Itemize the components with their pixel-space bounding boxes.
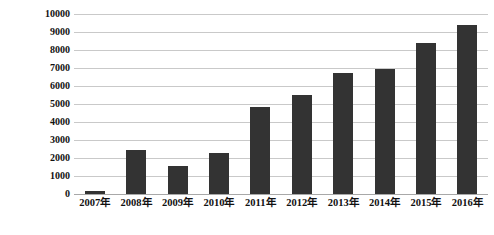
bar[interactable] <box>250 107 270 194</box>
x-axis-tick-label: 2012年 <box>281 196 322 216</box>
x-axis-tick-label: 2011年 <box>240 196 281 216</box>
x-axis-tick-label: 2008年 <box>115 196 156 216</box>
bar[interactable] <box>333 73 353 195</box>
bar-chart: 收费站年平均日交通量(辆/日) 010002000300040005000600… <box>0 0 494 235</box>
y-axis-tick-label: 8000 <box>26 45 70 55</box>
y-axis-tick-label: 3000 <box>26 135 70 145</box>
x-axis-tick-label: 2016年 <box>447 196 488 216</box>
bar-slot <box>322 14 363 194</box>
bar[interactable] <box>375 69 395 194</box>
bar[interactable] <box>85 191 105 194</box>
bar-slot <box>115 14 156 194</box>
bar[interactable] <box>168 166 188 194</box>
x-axis-tick-labels: 2007年2008年2009年2010年2011年2012年2013年2014年… <box>74 196 488 216</box>
y-axis-tick-label: 9000 <box>26 27 70 37</box>
y-axis-tick-label: 0 <box>26 189 70 199</box>
y-axis-tick-label: 2000 <box>26 153 70 163</box>
gridline <box>74 194 488 195</box>
x-axis-tick-label: 2007年 <box>74 196 115 216</box>
y-axis-tick-label: 4000 <box>26 117 70 127</box>
bar[interactable] <box>209 153 229 194</box>
x-axis-tick-label: 2010年 <box>198 196 239 216</box>
y-axis-tick-label: 7000 <box>26 63 70 73</box>
bar-series <box>74 14 488 194</box>
plot-area <box>74 14 488 194</box>
bar-slot <box>240 14 281 194</box>
y-axis-tick-label: 6000 <box>26 81 70 91</box>
x-axis-tick-label: 2015年 <box>405 196 446 216</box>
bar[interactable] <box>292 95 312 194</box>
x-axis-tick-label: 2009年 <box>157 196 198 216</box>
x-axis-tick-label: 2014年 <box>364 196 405 216</box>
bar[interactable] <box>457 25 477 194</box>
bar[interactable] <box>416 43 436 194</box>
bar-slot <box>198 14 239 194</box>
bar-slot <box>157 14 198 194</box>
bar-slot <box>74 14 115 194</box>
bar-slot <box>447 14 488 194</box>
x-axis-tick-label: 2013年 <box>322 196 363 216</box>
y-axis-tick-label: 1000 <box>26 171 70 181</box>
y-axis-tick-label: 5000 <box>26 99 70 109</box>
bar[interactable] <box>126 150 146 194</box>
bar-slot <box>281 14 322 194</box>
y-axis-tick-labels: 0100020003000400050006000700080009000100… <box>26 14 70 194</box>
y-axis-tick-label: 10000 <box>26 9 70 19</box>
bar-slot <box>364 14 405 194</box>
bar-slot <box>405 14 446 194</box>
